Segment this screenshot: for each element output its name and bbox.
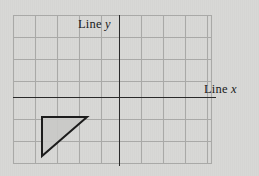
shaded-right-triangle (42, 117, 87, 156)
x-axis-label-variable: x (231, 82, 237, 96)
y-axis-label: Line y (78, 18, 111, 31)
y-axis-label-variable: y (105, 17, 111, 31)
x-axis-label-prefix: Line (204, 82, 228, 96)
y-axis-label-prefix: Line (78, 17, 102, 31)
x-axis-label: Line x (204, 83, 237, 96)
figure-canvas: Line y Line x (0, 0, 259, 176)
